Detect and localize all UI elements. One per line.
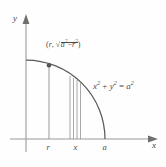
- eqn-y-exp: 2: [114, 80, 117, 86]
- eqn-x-exp: 2: [97, 80, 100, 86]
- x-axis-label: x: [152, 141, 156, 150]
- paren-close: ): [78, 40, 81, 49]
- eqn-plus: +: [102, 81, 107, 91]
- diagram-canvas: [0, 0, 166, 167]
- eqn-a-exp: 2: [131, 80, 134, 86]
- circle-diagram-figure: y x (r, √a2−r2) x2 + y2 = a2 r x a: [0, 0, 166, 167]
- tick-label-x: x: [74, 143, 78, 152]
- y-axis-arrowhead: [23, 14, 30, 24]
- radical-overbar: [61, 42, 78, 43]
- strip-lines: [70, 76, 81, 139]
- sqrt-expression: √a2−r2: [56, 41, 78, 49]
- tick-label-a: a: [103, 143, 107, 152]
- coord-comma: ,: [52, 40, 54, 49]
- y-axis-label: y: [13, 14, 17, 23]
- point-marker: [47, 63, 52, 68]
- eqn-equals: =: [119, 81, 124, 91]
- circle-equation-label: x2 + y2 = a2: [93, 82, 134, 91]
- circle-arc: [26, 60, 105, 139]
- tick-label-r: r: [47, 143, 50, 152]
- point-coordinate-label: (r, √a2−r2): [46, 41, 80, 49]
